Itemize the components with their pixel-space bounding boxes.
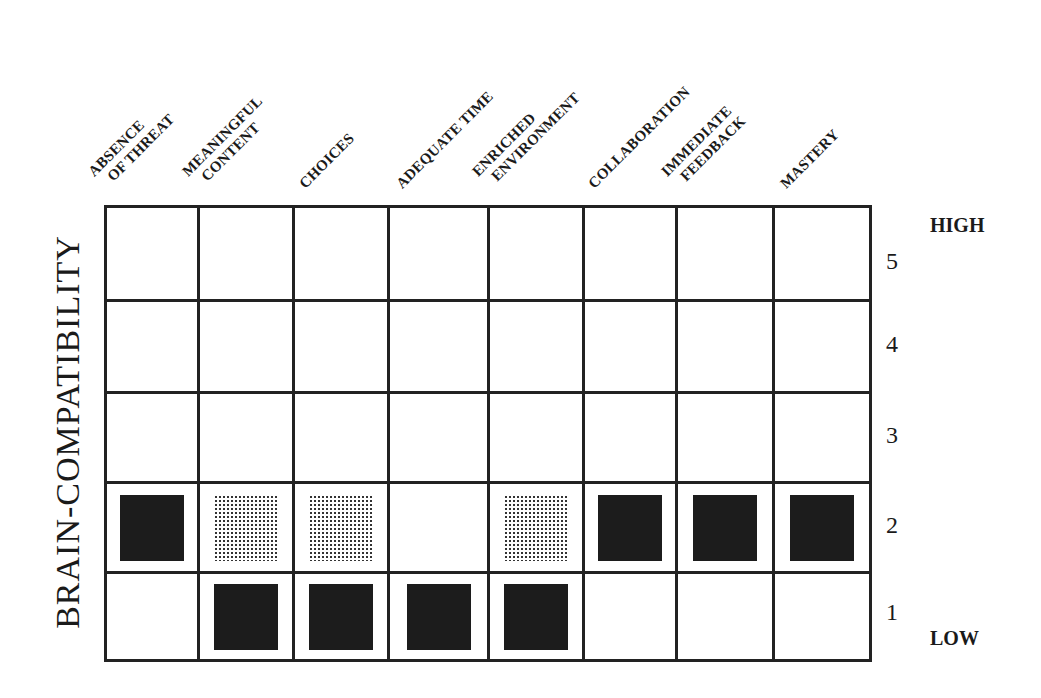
y-tick-2: 2 bbox=[886, 512, 898, 539]
grid-line-horizontal bbox=[104, 659, 872, 662]
low-label: LOW bbox=[930, 627, 979, 650]
solid-marker bbox=[214, 584, 278, 650]
grid-line-vertical bbox=[772, 205, 775, 659]
grid-line-vertical bbox=[197, 205, 200, 659]
high-label: HIGH bbox=[930, 214, 984, 237]
grid-line-horizontal bbox=[104, 481, 872, 484]
y-tick-1: 1 bbox=[886, 599, 898, 626]
solid-marker bbox=[790, 495, 854, 561]
y-axis-label: BRAIN-COMPATIBILITY bbox=[49, 235, 87, 629]
y-tick-5: 5 bbox=[886, 248, 898, 275]
solid-marker bbox=[309, 584, 373, 650]
solid-marker bbox=[504, 584, 568, 650]
grid-line-vertical bbox=[675, 205, 678, 659]
grid-line-vertical bbox=[104, 205, 107, 659]
grid-line-vertical bbox=[582, 205, 585, 659]
grid-line-vertical bbox=[387, 205, 390, 659]
grid-line-vertical bbox=[869, 205, 872, 659]
rating-grid bbox=[104, 205, 869, 659]
grid-line-horizontal bbox=[104, 299, 872, 302]
y-tick-4: 4 bbox=[886, 331, 898, 358]
column-label: CHOICES bbox=[295, 130, 357, 192]
dotted-marker bbox=[214, 495, 278, 561]
column-label: ABSENCEOF THREAT bbox=[84, 99, 177, 192]
y-tick-3: 3 bbox=[886, 422, 898, 449]
grid-line-vertical bbox=[292, 205, 295, 659]
column-label: MEANINGFULCONTENT bbox=[178, 93, 277, 192]
column-label: MASTERY bbox=[776, 126, 842, 192]
grid-line-horizontal bbox=[104, 571, 872, 574]
dotted-marker bbox=[504, 495, 568, 561]
grid-line-vertical bbox=[487, 205, 490, 659]
solid-marker bbox=[120, 495, 184, 561]
solid-marker bbox=[407, 584, 471, 650]
grid-line-horizontal bbox=[104, 391, 872, 394]
dotted-marker bbox=[309, 495, 373, 561]
solid-marker bbox=[598, 495, 662, 561]
solid-marker bbox=[693, 495, 757, 561]
grid-line-horizontal bbox=[104, 205, 872, 208]
